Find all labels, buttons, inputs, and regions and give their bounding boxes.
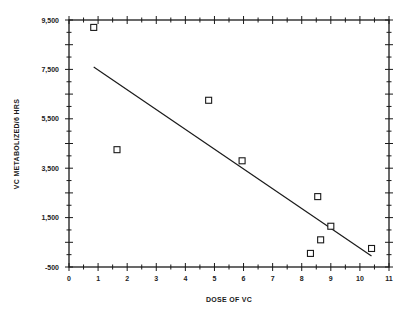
- x-tick-label: 6: [242, 275, 246, 282]
- data-point-square: [315, 194, 321, 200]
- plot-frame: [69, 20, 389, 267]
- y-tick-label: 1,500: [41, 214, 59, 222]
- y-tick-label: -500: [45, 264, 59, 271]
- data-point-square: [369, 245, 375, 251]
- x-tick-label: 0: [67, 275, 71, 282]
- x-tick-label: 5: [213, 275, 217, 282]
- y-axis: 9,5007,5005,5003,5001,500-500: [41, 17, 393, 271]
- y-tick-label: 5,500: [41, 115, 59, 123]
- x-tick-label: 2: [125, 275, 129, 282]
- x-tick-label: 8: [300, 275, 304, 282]
- data-point-square: [328, 223, 334, 229]
- y-axis-title: VC METABOLIZED/6 HRS: [13, 99, 20, 189]
- x-axis-title: DOSE OF VC: [206, 296, 252, 303]
- scatter-chart: 9,5007,5005,5003,5001,500-500 0123456789…: [0, 0, 405, 320]
- data-points: [91, 24, 375, 256]
- data-point-square: [114, 147, 120, 153]
- x-tick-label: 11: [385, 275, 393, 282]
- y-tick-label: 9,500: [41, 17, 59, 25]
- y-tick-label: 3,500: [41, 165, 59, 173]
- y-tick-label: 7,500: [41, 66, 59, 74]
- data-point-square: [318, 237, 324, 243]
- x-tick-label: 3: [154, 275, 158, 282]
- x-tick-label: 1: [96, 275, 100, 282]
- x-tick-label: 7: [271, 275, 275, 282]
- plot-border: [69, 20, 389, 267]
- data-point-square: [206, 97, 212, 103]
- data-point-square: [91, 24, 97, 30]
- x-tick-label: 10: [356, 275, 364, 282]
- x-tick-label: 9: [329, 275, 333, 282]
- data-point-square: [239, 158, 245, 164]
- x-tick-label: 4: [183, 275, 187, 282]
- data-point-square: [307, 250, 313, 256]
